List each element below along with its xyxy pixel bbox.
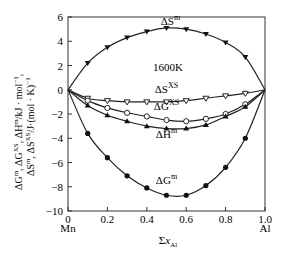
svg-text:0.2: 0.2 bbox=[101, 213, 115, 225]
svg-text:ΔGm, ΔGXS, ΔHm/kJ · mol−1,: ΔGm, ΔGXS, ΔHm/kJ · mol−1, bbox=[12, 74, 24, 190]
series-label: ΔGm bbox=[156, 172, 178, 186]
svg-text:6: 6 bbox=[58, 11, 64, 23]
svg-text:−4: −4 bbox=[51, 132, 63, 144]
svg-text:0.4: 0.4 bbox=[140, 213, 154, 225]
series-label: ΔHm bbox=[156, 126, 178, 140]
svg-text:−8: −8 bbox=[51, 181, 63, 193]
temperature-annotation: 1600K bbox=[153, 61, 183, 73]
svg-text:−6: −6 bbox=[51, 157, 63, 169]
series-sm bbox=[68, 26, 265, 90]
svg-text:4: 4 bbox=[58, 35, 64, 47]
svg-text:2: 2 bbox=[58, 60, 64, 72]
series-label: ΔGXS bbox=[154, 98, 179, 112]
svg-text:0: 0 bbox=[58, 84, 64, 96]
svg-text:0.8: 0.8 bbox=[219, 213, 233, 225]
x-axis-ticks: 00.20.40.60.81.0 bbox=[65, 207, 272, 225]
x-left-end-label: Mn bbox=[60, 222, 76, 234]
x-right-end-label: Al bbox=[260, 222, 271, 234]
chart: 6420−2−4−6−8−10 00.20.40.60.81.0 ΔSmΔSXS… bbox=[0, 0, 283, 256]
y-axis-label: ΔGm, ΔGXS, ΔHm/kJ · mol−1, ΔSm, ΔSXS/J·(… bbox=[12, 74, 37, 190]
series-label: ΔSXS bbox=[155, 81, 178, 95]
svg-text:ΣxAl: ΣxAl bbox=[159, 234, 177, 249]
svg-text:ΔSm, ΔSXS/J·(mol · K)−1: ΔSm, ΔSXS/J·(mol · K)−1 bbox=[24, 77, 37, 176]
series-label: ΔSm bbox=[161, 13, 181, 27]
svg-text:−2: −2 bbox=[51, 108, 63, 120]
svg-text:0.6: 0.6 bbox=[179, 213, 193, 225]
svg-text:−10: −10 bbox=[46, 205, 64, 217]
x-axis-label: ΣxAl bbox=[159, 234, 177, 249]
series-labels: ΔSmΔSXSΔGXSΔHmΔGm bbox=[154, 13, 181, 186]
